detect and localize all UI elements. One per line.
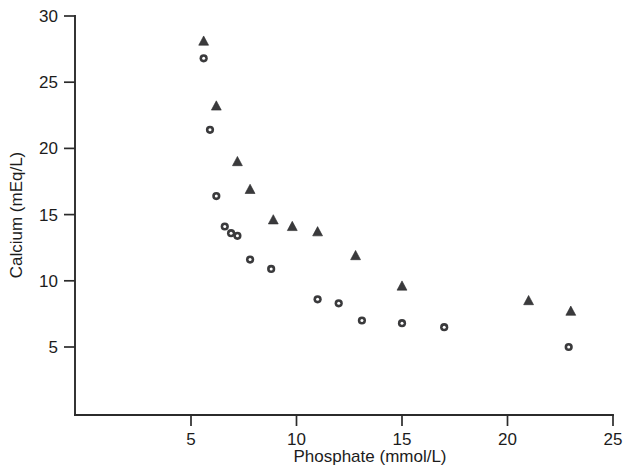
data-point-circle-hole [249, 258, 252, 261]
data-point-circle-hole [567, 346, 570, 349]
data-point-circle-hole [208, 128, 211, 131]
y-axis-title: Calcium (mEq/L) [7, 152, 26, 279]
data-point-triangle [268, 215, 278, 224]
data-point-circle-hole [236, 234, 239, 237]
data-point-triangle [199, 36, 209, 45]
data-point-triangle [351, 250, 361, 259]
x-axis-title: Phosphate (mmol/L) [293, 447, 446, 466]
data-point-circle-hole [401, 322, 404, 325]
x-axis: 510152025 [75, 415, 622, 449]
scatter-chart-figure: 51015202530 510152025 Calcium (mEq/L) Ph… [0, 0, 633, 469]
data-point-triangle [211, 101, 221, 110]
data-point-triangle [232, 156, 242, 165]
x-tick-label-20: 20 [498, 430, 517, 449]
series-circles [200, 54, 573, 351]
x-tick-label-5: 5 [186, 430, 195, 449]
data-point-circle-hole [337, 302, 340, 305]
data-point-triangle [245, 184, 255, 193]
chart-page: 51015202530 510152025 Calcium (mEq/L) Ph… [0, 0, 633, 469]
data-point-triangle [566, 306, 576, 315]
data-point-circle-hole [270, 267, 273, 270]
y-tick-label-25: 25 [39, 73, 58, 92]
y-tick-label-20: 20 [39, 139, 58, 158]
y-tick-label-5: 5 [49, 338, 58, 357]
y-tick-label-30: 30 [39, 7, 58, 26]
data-point-circle-hole [443, 326, 446, 329]
data-point-circle-hole [360, 319, 363, 322]
data-point-circle-hole [223, 225, 226, 228]
y-axis: 51015202530 [39, 7, 75, 415]
data-point-triangle [313, 227, 323, 236]
data-point-circle-hole [215, 195, 218, 198]
scatter-plot-svg: 51015202530 510152025 Calcium (mEq/L) Ph… [0, 0, 633, 469]
data-point-circle-hole [202, 57, 205, 60]
data-point-triangle [287, 221, 297, 230]
series-triangles [199, 36, 576, 315]
data-series-group [199, 36, 576, 351]
y-tick-label-10: 10 [39, 272, 58, 291]
data-point-circle-hole [230, 232, 233, 235]
data-point-triangle [397, 281, 407, 290]
data-point-triangle [524, 295, 534, 304]
data-point-circle-hole [316, 298, 319, 301]
x-tick-label-25: 25 [604, 430, 623, 449]
y-tick-label-15: 15 [39, 206, 58, 225]
